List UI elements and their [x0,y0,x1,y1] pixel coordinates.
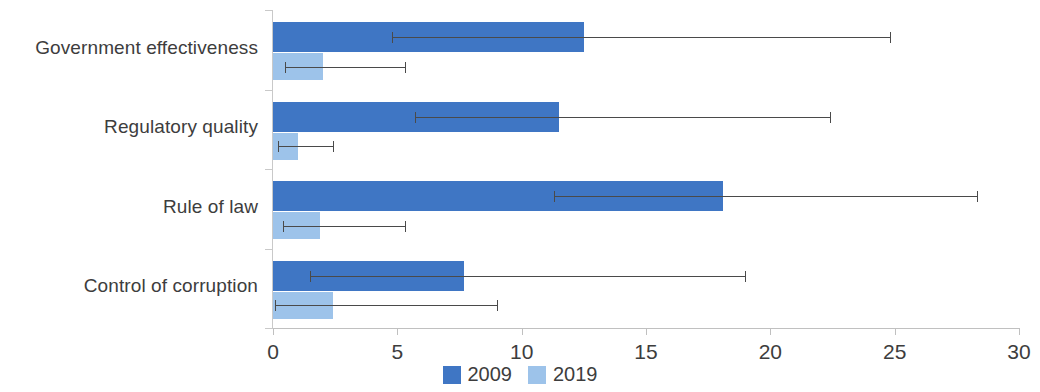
x-tick-2 [522,328,523,335]
error-bar-cap-high [890,32,891,43]
x-tick-label-2: 10 [510,340,533,364]
error-bar-cap-high [830,112,831,123]
error-bar-line [278,146,333,147]
x-tick-5 [895,328,896,335]
chart-legend: 2009 2019 [0,363,1040,386]
legend-swatch-2009-icon [443,366,461,384]
x-tick-label-5: 25 [883,340,906,364]
bar-chart: Government effectiveness Regulatory qual… [0,0,1040,392]
x-tick-label-1: 5 [391,340,403,364]
legend-item-2009: 2009 [443,363,513,386]
error-bar-cap-low [554,191,555,202]
error-bar-cap-low [283,221,284,232]
y-tick-1 [265,90,273,91]
error-bar-cap-high [405,221,406,232]
error-bar-line [415,117,830,118]
category-label-1: Regulatory quality [104,116,258,138]
error-bar-cap-high [497,300,498,311]
error-bar-line [283,226,405,227]
error-bar-cap-high [405,62,406,73]
legend-item-2019: 2019 [528,363,598,386]
error-bar-cap-high [977,191,978,202]
error-bar-cap-low [392,32,393,43]
category-label-3: Control of corruption [84,275,258,297]
x-tick-0 [273,328,274,335]
legend-label-2019: 2019 [553,363,598,386]
error-bar-cap-low [310,271,311,282]
error-bar-line [285,67,404,68]
y-tick-3 [265,249,273,250]
error-bar-cap-low [275,300,276,311]
y-tick-2 [265,169,273,170]
x-tick-1 [397,328,398,335]
plot-area: 051015202530 [273,10,1019,328]
error-bar-line [392,37,889,38]
x-tick-label-0: 0 [267,340,279,364]
error-bar-cap-low [278,141,279,152]
category-label-0: Government effectiveness [35,37,258,59]
legend-label-2009: 2009 [468,363,513,386]
x-tick-label-6: 30 [1007,340,1030,364]
x-tick-label-3: 15 [634,340,657,364]
error-bar-line [310,276,745,277]
error-bar-cap-high [745,271,746,282]
category-label-2: Rule of law [163,196,258,218]
legend-swatch-2019-icon [528,366,546,384]
error-bar-line [554,196,977,197]
error-bar-cap-low [415,112,416,123]
y-tick-0 [265,10,273,11]
error-bar-line [275,305,496,306]
error-bar-cap-low [285,62,286,73]
x-tick-label-4: 20 [759,340,782,364]
x-tick-6 [1019,328,1020,335]
error-bar-cap-high [333,141,334,152]
x-tick-3 [646,328,647,335]
y-tick-4 [265,328,273,329]
x-tick-4 [770,328,771,335]
